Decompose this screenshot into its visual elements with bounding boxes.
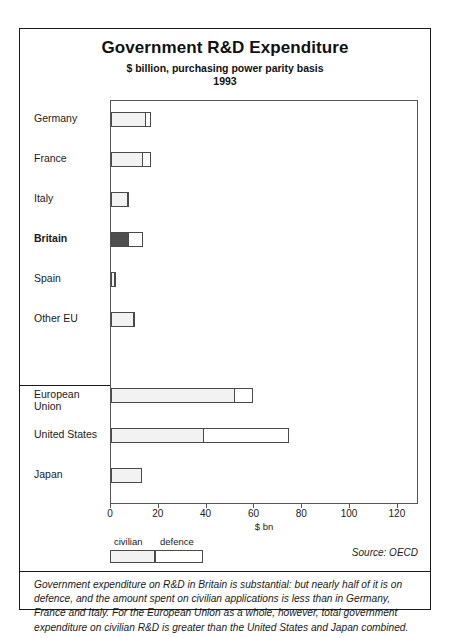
legend-label-civilian: civilian [114,536,143,547]
category-label-united-states: United States [34,428,106,440]
chart-page: Government R&D Expenditure $ billion, pu… [0,0,452,638]
x-axis-title: $ bn [110,521,418,532]
category-label-italy: Italy [34,192,106,204]
x-tick-label: 60 [238,508,268,519]
chart-subtitle: $ billion, purchasing power parity basis [19,62,431,74]
bar-segment-defence [145,112,151,127]
x-tick-label: 0 [95,508,125,519]
caption-rule [20,571,430,572]
bar-segment-defence [128,232,144,247]
plot-area [110,100,418,504]
bar-segment-defence [127,192,129,207]
x-tick-label: 20 [143,508,173,519]
bar-segment-defence [133,312,135,327]
category-label-other-eu: Other EU [34,312,106,324]
category-label-britain: Britain [34,232,106,244]
chart-year: 1993 [19,75,431,87]
bar-segment-defence [234,388,253,403]
caption-text: Government expenditure on R&D in Britain… [34,578,419,635]
legend-label-defence: defence [160,536,194,547]
category-label-japan: Japan [34,468,106,480]
x-tick-label: 120 [382,508,412,519]
category-label-france: France [34,152,106,164]
x-tick-label: 40 [191,508,221,519]
bars-layer [111,101,417,503]
bar-segment-civilian [111,428,204,443]
bar-segment-civilian [111,152,143,167]
x-tick-label: 80 [286,508,316,519]
bar-segment-civilian [111,232,129,247]
category-label-spain: Spain [34,272,106,284]
legend-swatch-defence [155,550,203,563]
source-note: Source: OECD [352,547,418,558]
bar-segment-defence [203,428,289,443]
bar-segment-civilian [111,468,142,483]
group-separator [20,385,110,386]
bar-segment-civilian [111,112,146,127]
x-tick-label: 100 [334,508,364,519]
bar-segment-civilian [111,312,134,327]
bar-segment-defence [114,272,116,287]
category-label-european-union: European Union [34,388,106,412]
bar-segment-defence [142,152,150,167]
category-label-germany: Germany [34,112,106,124]
chart-title: Government R&D Expenditure [19,38,431,58]
legend-swatch-civilian [110,550,155,563]
bar-segment-civilian [111,192,128,207]
bar-segment-civilian [111,388,235,403]
